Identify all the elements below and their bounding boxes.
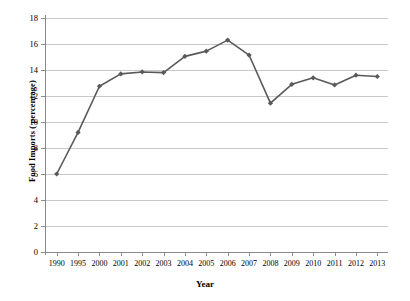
x-axis-tick-label: 2013 [364,259,390,268]
y-axis-tick [41,200,46,201]
x-axis-tick [249,252,250,256]
x-axis-tick [292,252,293,256]
y-axis-tick-label: 8 [0,144,38,153]
y-axis-tick-label: 4 [0,196,38,205]
x-axis-tick [185,252,186,256]
y-axis-tick-label: 6 [0,170,38,179]
x-axis-tick [270,252,271,256]
y-axis-tick [41,18,46,19]
series-layer [0,0,410,301]
x-axis-tick [377,252,378,256]
x-axis-tick [356,252,357,256]
x-axis-tick [206,252,207,256]
y-axis-tick-label: 16 [0,40,38,49]
series-line [57,40,378,174]
x-axis-tick [121,252,122,256]
x-axis-tick [142,252,143,256]
y-axis-tick [41,148,46,149]
y-axis-tick-label: 12 [0,92,38,101]
y-axis-tick-label: 14 [0,66,38,75]
x-axis-tick [164,252,165,256]
y-axis-tick [41,96,46,97]
y-axis-tick [41,70,46,71]
data-point-marker [332,82,337,87]
data-point-marker [375,74,380,79]
data-point-marker [353,73,358,78]
y-axis-tick [41,44,46,45]
y-axis-tick [41,122,46,123]
x-axis-tick [228,252,229,256]
y-axis-tick-label: 18 [0,14,38,23]
y-axis-tick-label: 0 [0,248,38,257]
y-axis-tick [41,226,46,227]
x-axis-tick [78,252,79,256]
y-axis-tick [41,174,46,175]
x-axis-tick [99,252,100,256]
data-point-marker [311,75,316,80]
x-axis-tick [335,252,336,256]
x-axis-title: Year [0,279,410,289]
x-axis-tick [313,252,314,256]
data-point-marker [140,69,145,74]
y-axis-tick [41,252,46,253]
y-axis-tick-label: 2 [0,222,38,231]
x-axis-tick [57,252,58,256]
line-chart: Food Imports ( percentage) Year 02468101… [0,0,410,301]
y-axis-tick-label: 10 [0,118,38,127]
